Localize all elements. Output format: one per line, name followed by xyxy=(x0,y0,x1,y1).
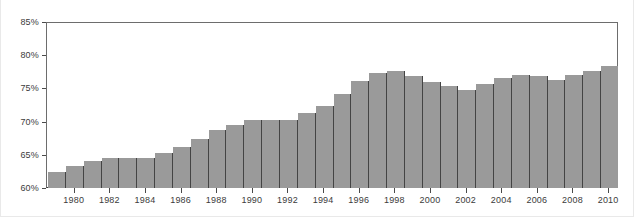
bar xyxy=(387,71,405,188)
x-axis-tick-mark xyxy=(287,188,288,193)
x-axis-tick-mark xyxy=(109,188,110,193)
y-axis-tick-label: 65% xyxy=(20,150,39,160)
x-axis-tick-label: 2006 xyxy=(526,195,547,205)
bar xyxy=(102,158,120,188)
x-axis-tick-label: 1996 xyxy=(348,195,369,205)
x-axis-tick-label: 1998 xyxy=(384,195,405,205)
bar xyxy=(334,94,352,188)
bar-series xyxy=(48,24,618,188)
bar xyxy=(119,158,137,188)
bar xyxy=(173,147,191,188)
bar xyxy=(48,172,66,188)
x-axis-tick-label: 1986 xyxy=(170,195,191,205)
x-axis-tick-mark xyxy=(323,188,324,193)
bar xyxy=(423,82,441,188)
bar xyxy=(155,153,173,188)
bar xyxy=(84,161,102,188)
y-axis-tick-label: 85% xyxy=(20,17,39,27)
bar xyxy=(244,120,262,188)
bar xyxy=(476,84,494,188)
x-axis-tick-label: 1992 xyxy=(277,195,298,205)
y-axis: 60%65%70%75%80%85% xyxy=(0,0,46,217)
plot-wrapper xyxy=(46,22,618,188)
x-axis-tick-label: 1990 xyxy=(241,195,262,205)
y-axis-tick-label: 60% xyxy=(20,183,39,193)
bar xyxy=(601,66,618,188)
x-axis-tick-label: 1994 xyxy=(313,195,334,205)
x-axis-tick-mark xyxy=(216,188,217,193)
bar xyxy=(548,80,566,188)
x-axis-tick-label: 1988 xyxy=(206,195,227,205)
x-axis-tick-mark xyxy=(501,188,502,193)
x-axis-tick-mark xyxy=(608,188,609,193)
x-axis-tick-label: 1980 xyxy=(63,195,84,205)
x-axis-tick-label: 1984 xyxy=(135,195,156,205)
x-axis-tick-label: 2000 xyxy=(420,195,441,205)
bar xyxy=(66,166,84,188)
x-axis-tick-mark xyxy=(74,188,75,193)
bar xyxy=(351,81,369,188)
bar xyxy=(191,139,209,188)
x-axis: 1980198219841986198819901992199419961998… xyxy=(46,188,618,217)
y-axis-tick-label: 70% xyxy=(20,117,39,127)
bar xyxy=(441,86,459,188)
bar xyxy=(512,75,530,188)
bar xyxy=(583,71,601,188)
x-axis-tick-mark xyxy=(466,188,467,193)
x-axis-tick-label: 1982 xyxy=(99,195,120,205)
plot-area xyxy=(46,22,618,188)
x-axis-tick-mark xyxy=(572,188,573,193)
y-axis-tick-label: 75% xyxy=(20,83,39,93)
bar xyxy=(137,158,155,188)
bar xyxy=(262,120,280,188)
x-axis-tick-mark xyxy=(181,188,182,193)
bar xyxy=(530,76,548,188)
y-axis-tick-label: 80% xyxy=(20,50,39,60)
bar xyxy=(369,73,387,188)
bar xyxy=(298,113,316,188)
x-axis-tick-mark xyxy=(359,188,360,193)
x-axis-tick-mark xyxy=(430,188,431,193)
x-axis-tick-label: 2010 xyxy=(598,195,619,205)
chart-figure: 60%65%70%75%80%85% 198019821984198619881… xyxy=(0,0,634,217)
x-axis-tick-label: 2008 xyxy=(562,195,583,205)
bar xyxy=(316,106,334,188)
bar xyxy=(405,76,423,188)
x-axis-tick-mark xyxy=(394,188,395,193)
bar xyxy=(458,90,476,188)
x-axis-tick-label: 2002 xyxy=(455,195,476,205)
bar xyxy=(209,130,227,188)
bar xyxy=(494,78,512,188)
bar xyxy=(226,125,244,188)
x-axis-tick-label: 2004 xyxy=(491,195,512,205)
x-axis-tick-mark xyxy=(252,188,253,193)
bar xyxy=(280,120,298,188)
x-axis-tick-mark xyxy=(537,188,538,193)
bar xyxy=(565,75,583,188)
x-axis-tick-mark xyxy=(145,188,146,193)
